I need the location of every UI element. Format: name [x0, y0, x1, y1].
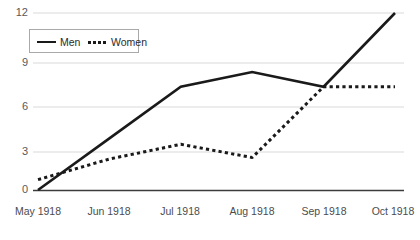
- y-tick-label-12: 12: [2, 6, 28, 18]
- y-tick-label-9: 9: [2, 56, 28, 68]
- legend-label-women: Women: [111, 36, 147, 48]
- x-tick-label-may: May 1918: [15, 205, 61, 217]
- x-tick-label-oct: Oct 1918: [372, 205, 415, 217]
- x-tick-label-sep: Sep 1918: [302, 205, 347, 217]
- x-tick-label-jun: Jun 1918: [87, 205, 130, 217]
- legend: Men Women: [29, 29, 139, 53]
- x-tick-label-aug: Aug 1918: [230, 205, 275, 217]
- series-line-women: [38, 87, 395, 180]
- line-chart: 12 9 6 3 0 May 1918 Jun 1918 Jul 1918 Au…: [0, 0, 420, 240]
- legend-solid-line-icon: [37, 37, 56, 47]
- legend-item-men: Men: [37, 30, 80, 54]
- legend-item-women: Women: [88, 30, 147, 54]
- legend-dotted-line-icon: [88, 37, 107, 47]
- legend-label-men: Men: [60, 36, 80, 48]
- y-tick-label-0: 0: [2, 183, 28, 195]
- y-tick-label-3: 3: [2, 145, 28, 157]
- x-tick-label-jul: Jul 1918: [160, 205, 200, 217]
- y-tick-label-6: 6: [2, 100, 28, 112]
